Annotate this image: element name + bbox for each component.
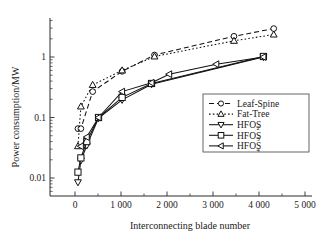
legend-label: Fat-Tree (237, 109, 269, 119)
top-margin-strip (0, 0, 333, 7)
power-consumption-line-chart: 01 0002 0003 0004 0005 000 0.010.11 Inte… (0, 0, 333, 248)
data-point (78, 155, 84, 161)
chart-legend[interactable]: Leaf-SpineFat-TreeHFOS2HFOS3HFOS4 (203, 94, 309, 153)
x-axis-title: Interconnecting blade number (130, 220, 251, 231)
x-tick-label: 4 000 (248, 200, 270, 210)
x-tick-label: 2 000 (156, 200, 178, 210)
y-tick-label: 0.1 (34, 113, 46, 123)
y-axis-title: Power consumption/MW (10, 66, 21, 167)
data-point (90, 89, 96, 95)
chart-figure: 01 0002 0003 0004 0005 000 0.010.11 Inte… (0, 0, 333, 248)
legend-label: Leaf-Spine (237, 99, 279, 109)
x-tick-label: 1 000 (110, 200, 132, 210)
y-tick-label: 1 (41, 52, 46, 62)
y-tick-label: 0.01 (29, 173, 46, 183)
x-tick-label: 0 (73, 200, 78, 210)
legend-marker-circle (218, 101, 223, 106)
legend-marker-square (218, 133, 224, 139)
x-tick-label: 5 000 (294, 200, 316, 210)
data-point (75, 169, 81, 175)
x-tick-label: 3 000 (202, 200, 224, 210)
